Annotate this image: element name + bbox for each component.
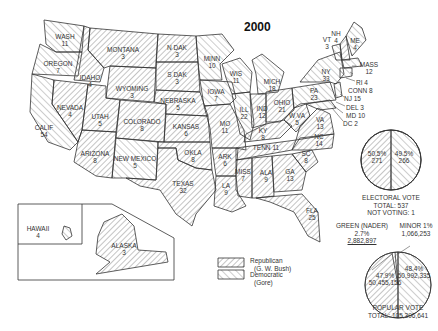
state-nj <box>334 82 342 98</box>
label-nh: NH4 <box>331 30 340 44</box>
popular-rep-label: 47.9%50,455,156 <box>369 272 402 286</box>
label-dc: DC 2 <box>343 120 358 127</box>
label-idaho: IDAHO4 <box>80 74 101 88</box>
label-fla: FLA25 <box>306 207 318 221</box>
legend-democratic: Democratic (Gore) <box>250 270 283 286</box>
label-va: VA13 <box>316 116 324 130</box>
label-vt: VT3 <box>323 36 331 50</box>
label-nc: NC14 <box>314 133 323 147</box>
electoral-caption: ELECTORAL VOTE TOTAL: 537 NOT VOTING: 1 <box>362 194 420 217</box>
label-wis: WIS11 <box>230 70 242 84</box>
label-ga: GA13 <box>285 168 294 182</box>
label-montana: MONTANA3 <box>107 46 139 60</box>
label-ill: ILL22 <box>239 106 248 120</box>
label-alaska: ALASKA3 <box>111 242 136 256</box>
label-wyoming: WYOMING3 <box>116 85 149 99</box>
popular-caption: POPULAR VOTE TOTAL: 105,396,641 <box>368 304 428 319</box>
label-pa: PA23 <box>310 87 318 101</box>
label-miss: MISS7 <box>235 168 251 182</box>
label-ohio: OHIO21 <box>274 99 291 113</box>
label-newmexico: NEW MEXICO5 <box>114 155 157 169</box>
label-tenn: TENN 11 <box>253 144 279 151</box>
label-la: LA9 <box>222 182 230 196</box>
label-mich: MICH18 <box>264 78 281 92</box>
map-title: 2000 <box>244 20 271 34</box>
green-nader-label: GREEN (NADER) 2.7% 2,882,897 <box>336 222 388 245</box>
label-mass: MASS12 <box>360 61 378 75</box>
label-del: DEL 3 <box>346 104 364 111</box>
label-ky: KY8 <box>259 127 268 141</box>
label-wash: WASH11 <box>55 33 74 47</box>
label-conn: CONN 8 <box>348 87 373 94</box>
label-nebraska: NEBRASKA5 <box>160 97 195 111</box>
legend-swatch-republican <box>218 258 244 267</box>
label-iowa: IOWA7 <box>207 88 224 102</box>
label-mo: MO11 <box>220 120 230 134</box>
label-me: ME4 <box>350 37 360 51</box>
label-minn: MINN10 <box>204 55 221 69</box>
label-nevada: NEVADA4 <box>57 104 83 118</box>
label-nj: NJ 15 <box>344 95 361 102</box>
label-ri: RI 4 <box>356 79 368 86</box>
label-ind: IND12 <box>256 105 267 119</box>
electoral-rep-label: 50.5%271 <box>368 150 386 164</box>
label-sc: SC8 <box>301 150 310 164</box>
label-ala: ALA9 <box>260 169 272 183</box>
label-oregon: OREGON7 <box>44 60 73 74</box>
label-kansas: KANSAS6 <box>173 123 199 137</box>
label-ndak: N DAK3 <box>167 44 187 58</box>
label-sdak: S DAK3 <box>167 71 187 85</box>
label-texas: TEXAS32 <box>172 180 193 194</box>
label-ny: NY33 <box>321 68 330 82</box>
label-colorado: COLORADO8 <box>123 118 160 132</box>
label-md: MD 10 <box>346 112 365 119</box>
legend-swatch-democratic <box>218 270 244 279</box>
label-arizona: ARIZONA8 <box>81 150 110 164</box>
label-ark: ARK6 <box>218 153 231 167</box>
label-calif: CALIF54 <box>35 124 53 138</box>
electoral-dem-label: 49.5%266 <box>395 150 413 164</box>
popular-dem-label: 48.4%50,992,335 <box>398 265 431 279</box>
label-okla: OKLA8 <box>184 149 201 163</box>
state-conn <box>340 68 352 78</box>
minor-label: MINOR 1% 1,066,253 <box>400 222 433 237</box>
label-wva: W VA5 <box>289 112 305 126</box>
label-utah: UTAH5 <box>91 113 108 127</box>
label-hawaii: HAWAII4 <box>27 225 50 239</box>
